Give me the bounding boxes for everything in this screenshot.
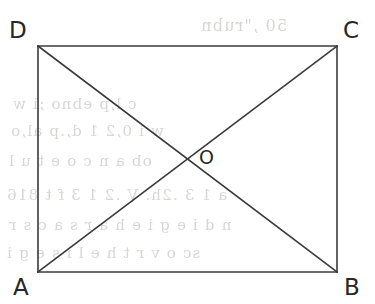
figure-canvas: 50 ,"rubnc l,p ebno ;i ww i 0,2 1 d,.p a… — [0, 0, 375, 304]
vertex-label-D: D — [9, 19, 27, 42]
rectangle-diagonals-figure — [0, 0, 375, 304]
vertex-label-C: C — [343, 19, 359, 42]
vertex-label-A: A — [13, 276, 29, 299]
point-label-O: O — [199, 148, 214, 167]
figure-edges — [38, 46, 337, 272]
vertex-label-B: B — [344, 276, 360, 299]
